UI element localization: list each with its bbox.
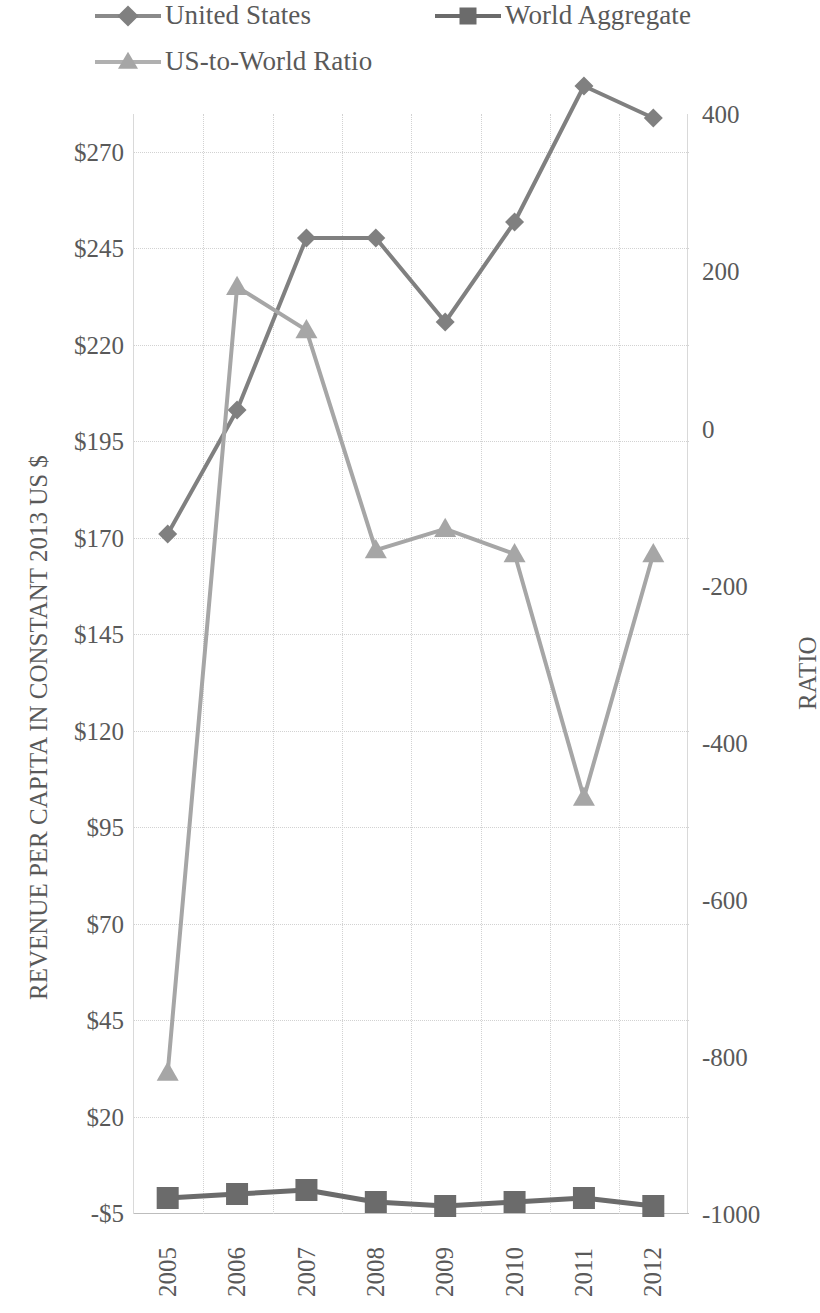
x-tick-2012: 2012	[640, 1247, 665, 1297]
diamond-marker-icon	[117, 5, 138, 26]
right-axis-title: RATIO	[795, 636, 820, 710]
legend-item-us-to-world-ratio[interactable]: US-to-World Ratio	[95, 48, 372, 75]
legend-item-united-states[interactable]: United States	[95, 2, 311, 29]
plot-area	[133, 114, 688, 1214]
legend-item-world-aggregate[interactable]: World Aggregate	[435, 2, 691, 29]
y-tick-right-6: -800	[702, 1045, 812, 1070]
square-marker-icon	[460, 7, 477, 24]
x-tick-2011: 2011	[571, 1248, 596, 1297]
triangle-marker-icon	[118, 51, 138, 68]
y-tick-left-4: $170	[36, 526, 124, 551]
x-tick-2010: 2010	[502, 1247, 527, 1297]
y-tick-left-7: $95	[36, 815, 124, 840]
y-tick-left-8: $70	[36, 912, 124, 937]
y-tick-right-1: 200	[702, 259, 812, 284]
legend-key-us-to-world-ratio	[95, 51, 161, 73]
y-tick-left-9: $45	[36, 1008, 124, 1033]
y-tick-left-6: $120	[36, 719, 124, 744]
y-tick-right-7: -1000	[702, 1202, 812, 1227]
y-tick-right-0: 400	[702, 102, 812, 127]
chart-container: United States World Aggregate US-to-Worl…	[0, 0, 820, 1313]
legend-key-united-states	[95, 5, 161, 27]
legend-label-united-states: United States	[165, 2, 311, 29]
y-tick-right-3: -200	[702, 574, 812, 599]
y-tick-right-5: -600	[702, 888, 812, 913]
y-tick-left-2: $220	[36, 333, 124, 358]
y-tick-left-11: -$5	[36, 1201, 124, 1226]
legend-key-world-aggregate	[435, 5, 501, 27]
y-tick-right-4: -400	[702, 731, 812, 756]
y-tick-left-1: $245	[36, 236, 124, 261]
chart-legend: United States World Aggregate US-to-Worl…	[0, 0, 820, 96]
y-tick-right-2: 0	[702, 417, 812, 442]
y-tick-left-5: $145	[36, 622, 124, 647]
y-tick-left-10: $20	[36, 1105, 124, 1130]
legend-label-world-aggregate: World Aggregate	[505, 2, 691, 29]
y-tick-left-0: $270	[36, 140, 124, 165]
x-tick-2009: 2009	[432, 1247, 457, 1297]
x-tick-2006: 2006	[224, 1247, 249, 1297]
y-tick-left-3: $195	[36, 429, 124, 454]
x-tick-2007: 2007	[294, 1247, 319, 1297]
x-tick-2008: 2008	[363, 1247, 388, 1297]
legend-label-us-to-world-ratio: US-to-World Ratio	[165, 48, 372, 75]
x-tick-2005: 2005	[155, 1247, 180, 1297]
